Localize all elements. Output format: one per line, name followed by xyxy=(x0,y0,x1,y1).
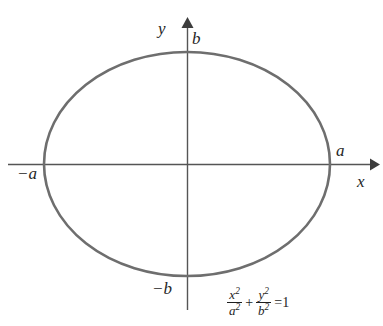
equation-b-exponent: 2 xyxy=(265,302,270,312)
equation-equals-sign: = xyxy=(274,296,282,310)
vertex-label-negative-a: −a xyxy=(17,165,37,182)
equation-a-exponent: 2 xyxy=(236,302,241,312)
equation-right-hand-side: 1 xyxy=(282,296,289,310)
equation-x-exponent: 2 xyxy=(235,286,240,296)
equation-y-exponent: 2 xyxy=(264,286,269,296)
equation-plus-operator: + xyxy=(245,296,253,310)
equation-term-y-denominator: b2 xyxy=(256,303,271,317)
equation-term-x: x2 a2 xyxy=(227,288,242,317)
equation-term-y: y2 b2 xyxy=(256,288,271,317)
vertex-label-b: b xyxy=(192,30,201,47)
ellipse-figure: y x b −b a −a x2 a2 + y2 b2 = 1 xyxy=(0,0,383,326)
x-axis-arrowhead xyxy=(370,159,380,171)
y-axis-arrowhead xyxy=(182,17,194,28)
ellipse-equation: x2 a2 + y2 b2 = 1 xyxy=(226,288,289,317)
ellipse-diagram-canvas xyxy=(0,0,383,326)
x-axis-label: x xyxy=(357,173,365,190)
vertex-label-a: a xyxy=(336,142,345,159)
y-axis-label: y xyxy=(158,20,166,37)
equation-term-x-denominator: a2 xyxy=(227,303,242,317)
vertex-label-negative-b: −b xyxy=(152,280,172,297)
